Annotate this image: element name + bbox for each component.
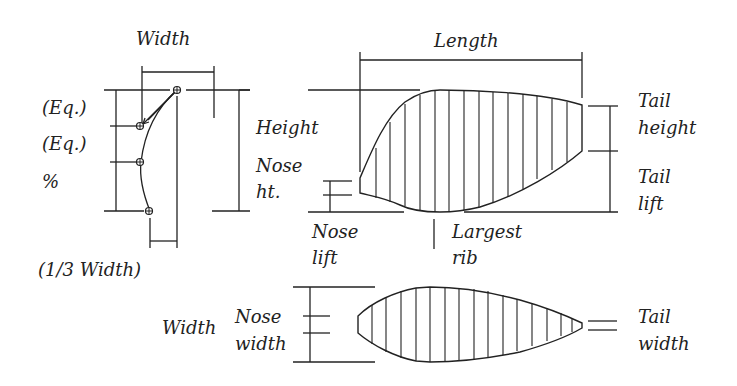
tail-width-label-2: width <box>638 333 690 354</box>
nose-ht-label-2: ht. <box>256 181 281 202</box>
control-point-icon <box>137 123 144 130</box>
nose-lift-label-2: lift <box>312 247 338 268</box>
control-point-icon <box>174 87 181 94</box>
plan-profile-outline <box>358 287 582 362</box>
plan-width-label: Width <box>162 317 216 338</box>
height-label: Height <box>255 117 319 138</box>
tail-width-label-1: Tail <box>638 306 671 327</box>
nose-width-label-1: Nose <box>234 306 281 327</box>
eq-label-2: (Eq.) <box>42 133 86 154</box>
cross-section-width-label: Width <box>136 28 190 49</box>
length-label: Length <box>433 30 499 51</box>
cross-section-view: Width <box>38 28 250 280</box>
side-profile-outline <box>360 90 582 212</box>
nose-width-label-2: width <box>235 333 287 354</box>
plan-view: Width Nose width Tail width <box>162 287 690 362</box>
control-point-icon <box>146 208 153 215</box>
nose-ht-label-1: Nose <box>255 155 302 176</box>
third-width-label: (1/3 Width) <box>38 259 141 280</box>
largest-rib-label-1: Largest <box>451 221 523 242</box>
tail-height-label-2: height <box>638 117 697 138</box>
tail-height-label-1: Tail <box>638 90 671 111</box>
eq-label-1: (Eq.) <box>42 97 86 118</box>
tail-lift-label-1: Tail <box>638 166 671 187</box>
nose-lift-label-1: Nose <box>311 221 358 242</box>
tail-lift-label-2: lift <box>638 193 664 214</box>
control-point-icon <box>137 159 144 166</box>
side-view: Length <box>239 30 697 268</box>
profile-diagram: Width <box>0 0 737 386</box>
largest-rib-label-2: rib <box>452 247 478 268</box>
percent-label: % <box>42 171 59 192</box>
